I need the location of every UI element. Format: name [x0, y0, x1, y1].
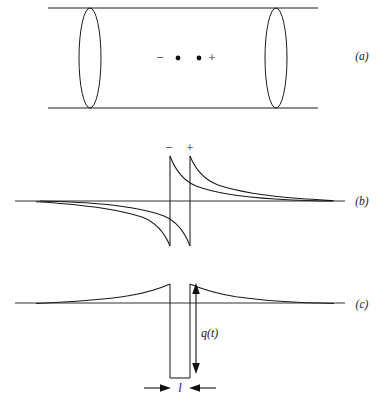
- figure-container: − + (a) − + (b): [0, 0, 392, 404]
- charge-dot-left-icon: [176, 56, 181, 61]
- negative-charge-sign: −: [156, 50, 163, 65]
- panel-label-c: (c): [356, 298, 369, 311]
- positive-charge-sign: +: [208, 50, 215, 65]
- panel-label-b: (b): [355, 195, 369, 208]
- panel-b-plus-sign: +: [186, 140, 193, 155]
- charge-dot-right-icon: [197, 56, 202, 61]
- physics-figure: − + (a) − + (b): [0, 0, 392, 404]
- width-l-label: l: [178, 381, 182, 395]
- panel-b-minus-sign: −: [165, 140, 172, 155]
- q-of-t-label: q(t): [201, 326, 218, 340]
- panel-label-a: (a): [355, 50, 369, 63]
